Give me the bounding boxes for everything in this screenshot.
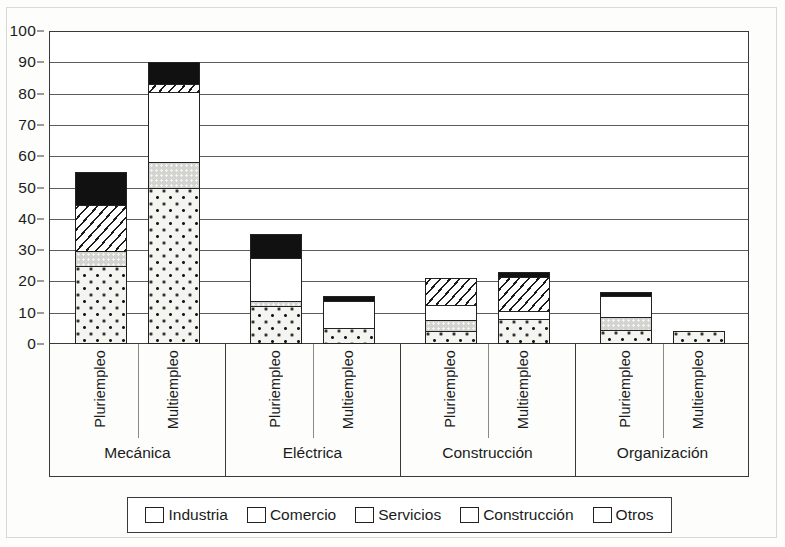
group-label: Organización (617, 444, 708, 462)
group-label: Eléctrica (283, 444, 342, 462)
y-axis-tick-label: 40 (18, 210, 36, 228)
category-separator (663, 344, 664, 438)
legend-label: Comercio (270, 506, 336, 524)
bar-segment-industria (498, 319, 550, 344)
legend-swatch-industria-icon (145, 507, 164, 523)
stacked-bar (498, 268, 550, 343)
group-label: Construcción (442, 444, 532, 462)
y-axis-tick-label: 50 (18, 179, 36, 197)
bar-segment-otros (75, 172, 127, 206)
group-separator (575, 344, 576, 477)
category-axis: PluriempleoMultiempleoPluriempleoMultiem… (49, 344, 749, 477)
bar-segment-otros (498, 272, 550, 278)
category-axis-box: PluriempleoMultiempleoPluriempleoMultiem… (49, 344, 749, 477)
legend-label: Servicios (378, 506, 441, 524)
bar-segment-industria (148, 188, 200, 345)
bar-segment-servicios (425, 305, 477, 321)
stacked-bar (75, 168, 127, 343)
bar-segment-comercio (425, 320, 477, 333)
bar-segment-industria (75, 266, 127, 344)
bars-layer (50, 32, 748, 343)
group-separator (225, 344, 226, 477)
legend-swatch-construccion-icon (460, 507, 479, 523)
bar-segment-industria (323, 328, 375, 344)
bar-segment-servicios (498, 311, 550, 320)
y-axis-tick-label: 60 (18, 147, 36, 165)
legend-swatch-servicios-icon (355, 507, 374, 523)
bar-segment-comercio (75, 251, 127, 267)
y-axis-tick-mark (37, 124, 44, 125)
group-label: Mecánica (104, 444, 170, 462)
chart-figure: 0102030405060708090100 PluriempleoMultie… (0, 0, 785, 547)
bar-segment-industria (425, 331, 477, 344)
legend-label: Construcción (483, 506, 573, 524)
y-axis-tick-label: 80 (18, 85, 36, 103)
group-separator (400, 344, 401, 477)
bar-category-label: Multiempleo (690, 350, 706, 429)
stacked-bar (148, 57, 200, 343)
bar-category-label: Pluriempleo (617, 350, 633, 428)
chart-legend: IndustriaComercioServiciosConstrucciónOt… (127, 497, 672, 533)
bar-category-label: Pluriempleo (442, 350, 458, 428)
y-axis-tick-mark (37, 218, 44, 219)
bar-segment-servicios (148, 92, 200, 162)
bar-category-label: Pluriempleo (267, 350, 283, 428)
stacked-bar (323, 293, 375, 343)
y-axis-tick-mark (37, 250, 44, 251)
legend-item: Industria (145, 506, 227, 524)
bar-segment-comercio (148, 162, 200, 189)
bar-segment-servicios (323, 301, 375, 329)
stacked-bar (673, 330, 725, 343)
bar-segment-comercio (600, 317, 652, 331)
y-axis-tick-mark (37, 344, 44, 345)
bar-segment-construccion (148, 84, 200, 93)
bar-segment-construccion (425, 278, 477, 306)
bar-segment-industria (250, 306, 302, 344)
y-axis-tick-mark (37, 312, 44, 313)
legend-label: Otros (616, 506, 654, 524)
y-axis-tick-label: 30 (18, 241, 36, 259)
y-axis-tick-mark (37, 31, 44, 32)
bar-segment-industria (600, 330, 652, 344)
bar-segment-servicios (250, 258, 302, 302)
legend-item: Servicios (355, 506, 441, 524)
stacked-bar (600, 288, 652, 343)
y-axis: 0102030405060708090100 (0, 31, 44, 344)
legend-swatch-comercio-icon (247, 507, 266, 523)
y-axis-tick-label: 90 (18, 53, 36, 71)
y-axis-tick-label: 70 (18, 116, 36, 134)
y-axis-tick-label: 0 (27, 335, 36, 353)
legend-label: Industria (168, 506, 227, 524)
bar-segment-otros (148, 62, 200, 85)
y-axis-tick-label: 100 (10, 22, 36, 40)
stacked-bar (425, 274, 477, 343)
y-axis-tick-mark (37, 93, 44, 94)
bar-segment-industria (673, 331, 725, 344)
legend-swatch-otros-icon (593, 507, 612, 523)
y-axis-tick-mark (37, 156, 44, 157)
bar-category-label: Pluriempleo (92, 350, 108, 428)
plot-area (49, 31, 749, 344)
legend-item: Comercio (247, 506, 336, 524)
category-separator (488, 344, 489, 438)
y-axis-tick-mark (37, 62, 44, 63)
bar-segment-otros (600, 292, 652, 297)
bar-segment-construccion (498, 277, 550, 311)
bar-segment-construccion (75, 205, 127, 252)
legend-item: Construcción (460, 506, 573, 524)
bar-segment-otros (250, 234, 302, 259)
category-separator (138, 344, 139, 438)
y-axis-tick-mark (37, 187, 44, 188)
bar-segment-otros (323, 296, 375, 302)
category-separator (313, 344, 314, 438)
legend-item: Otros (593, 506, 654, 524)
bar-category-label: Multiempleo (340, 350, 356, 429)
y-axis-tick-label: 10 (18, 304, 36, 322)
stacked-bar (250, 230, 302, 343)
y-axis-tick-label: 20 (18, 272, 36, 290)
y-axis-tick-mark (37, 281, 44, 282)
bar-segment-servicios (600, 296, 652, 318)
bar-category-label: Multiempleo (515, 350, 531, 429)
bar-category-label: Multiempleo (165, 350, 181, 429)
